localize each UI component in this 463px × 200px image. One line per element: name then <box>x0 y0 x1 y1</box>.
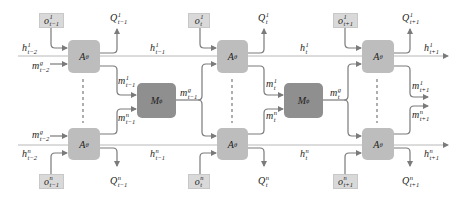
m-label-t+1-top: m1t+1 <box>412 80 429 93</box>
m-label-t-1-bottom: mnt−1 <box>118 112 135 125</box>
h-label-t-bottom: hnt <box>300 148 309 161</box>
h-in-label-top: h1t−2 <box>22 42 37 55</box>
h-label-t-top: h1t <box>300 42 309 55</box>
connection-lines <box>0 0 463 200</box>
obs-box-t-1-top: o1t−1 <box>39 13 64 28</box>
m-in-label-top: mgt−2 <box>32 60 49 73</box>
obs-box-t+1-top: o1t+1 <box>333 13 358 28</box>
h-label-t-1-bottom: hnt−1 <box>150 148 165 161</box>
m-in-label-bottom: mgt−2 <box>32 129 49 142</box>
m-label-t-1-top: m1t−1 <box>118 75 135 88</box>
m-global-label-t-1: mgt−1 <box>180 87 197 100</box>
h-label-t+1-bottom: hnt+1 <box>424 148 439 161</box>
q-label-t-1-top: Q1t−1 <box>110 12 127 25</box>
m-label-t-top: m1t <box>266 78 277 91</box>
m-global-label-t: mgt <box>330 87 341 100</box>
q-label-t+1-top: Q1t+1 <box>402 12 419 25</box>
m-label-t-bottom: mnt <box>266 110 277 123</box>
q-label-t-1-bottom: Qnt−1 <box>110 175 127 188</box>
q-label-t+1-bottom: Qnt+1 <box>402 175 419 188</box>
message-box-t: Mϕ <box>284 83 323 118</box>
agent-box-t+1-bottom: Aθ <box>362 128 394 160</box>
agent-box-t-top: Aθ <box>217 40 248 73</box>
agent-box-t+1-top: Aθ <box>362 40 394 73</box>
q-label-t-bottom: Qnt <box>258 175 269 188</box>
obs-box-t-top: o1t <box>188 13 210 28</box>
obs-box-t-bottom: ont <box>188 174 210 189</box>
agent-box-t-bottom: Aθ <box>217 128 248 160</box>
agent-box-t-1-bottom: Aθ <box>68 128 100 160</box>
h-in-label-bottom: hnt−2 <box>22 148 37 161</box>
obs-box-t-1-bottom: ont−1 <box>39 174 64 189</box>
message-box-t-1: Mϕ <box>137 83 176 118</box>
h-label-t-1-top: h1t−1 <box>150 42 165 55</box>
q-label-t-top: Q1t <box>258 12 269 25</box>
h-label-t+1-top: h1t+1 <box>424 42 439 55</box>
agent-box-t-1-top: Aθ <box>68 40 100 73</box>
m-label-t+1-bottom: mnt+1 <box>412 109 429 122</box>
obs-box-t+1-bottom: ont+1 <box>333 174 358 189</box>
